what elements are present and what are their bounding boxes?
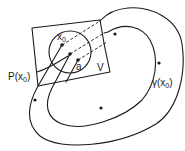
label-gamma-x0: γ(x0) bbox=[152, 77, 173, 89]
arrow-dot-inner-top bbox=[113, 32, 116, 35]
label-a: a bbox=[76, 61, 82, 72]
arrow-dot-outer-left bbox=[33, 98, 36, 101]
arrow-dot-outer-right bbox=[157, 61, 160, 64]
arrow-dot-inner-bottom bbox=[99, 106, 102, 109]
dashed-line-middle bbox=[70, 33, 104, 54]
poincare-map-diagram: x0 a V P(x0) γ(x0) bbox=[0, 0, 185, 151]
point-p-x0 bbox=[68, 52, 72, 56]
label-p-x0: P(x0) bbox=[8, 71, 30, 83]
point-x0 bbox=[60, 43, 64, 47]
label-v: V bbox=[97, 62, 104, 73]
dashed-line-upper bbox=[62, 21, 100, 45]
dashed-line-lower bbox=[78, 42, 107, 60]
label-x0: x0 bbox=[57, 31, 66, 43]
neighborhood-circle bbox=[49, 31, 91, 73]
